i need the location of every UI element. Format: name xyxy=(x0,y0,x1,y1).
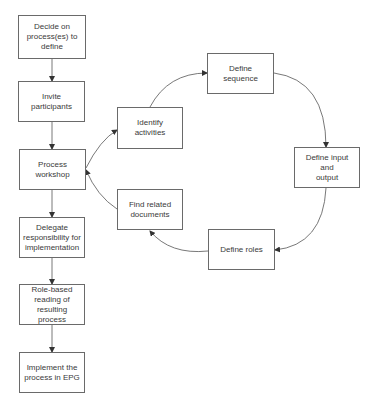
cycle-find-related-documents: Find related documents xyxy=(117,189,183,230)
arrow-finddocs-to-workshop xyxy=(86,170,117,209)
cycle-define-input-output: Define input and output xyxy=(294,147,360,188)
process-definition-diagram: Decide on process(es) to define Invite p… xyxy=(0,0,375,409)
connector-layer xyxy=(0,0,375,409)
cycle-define-sequence: Define sequence xyxy=(207,53,274,94)
step-role-based-reading: Role-based reading of resulting process xyxy=(19,284,85,325)
arrow-sequence-to-inout xyxy=(274,73,326,147)
cycle-define-roles: Define roles xyxy=(208,229,275,270)
step-decide-processes: Decide on process(es) to define xyxy=(18,15,86,59)
arrow-identify-to-sequence xyxy=(150,73,207,107)
arrow-workshop-to-identify xyxy=(86,130,117,168)
cycle-identify-activities: Identify activities xyxy=(117,107,183,149)
step-delegate-responsibility: Delegate responsibility for implementati… xyxy=(19,217,85,258)
arrow-roles-to-finddocs xyxy=(150,231,208,252)
step-invite-participants: Invite participants xyxy=(18,81,85,122)
step-implement-in-epg: Implement the process in EPG xyxy=(19,352,85,393)
arrow-inout-to-roles xyxy=(275,188,326,250)
step-process-workshop: Process workshop xyxy=(19,149,86,190)
